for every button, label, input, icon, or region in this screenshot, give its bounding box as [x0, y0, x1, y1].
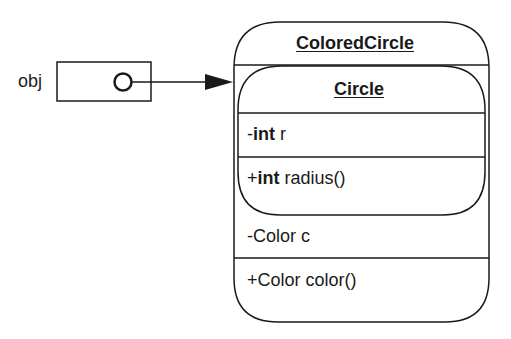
reference-label: obj: [18, 71, 42, 91]
inner-attr-name: r: [280, 124, 286, 144]
inner-attr-type: int: [253, 124, 275, 144]
inner-method: +int radius(): [247, 168, 346, 188]
inner-method-visibility: +: [247, 168, 258, 188]
outer-attribute: -Color c: [247, 226, 310, 246]
inner-class-name: Circle: [334, 79, 384, 99]
inner-method-name: radius(): [285, 168, 346, 188]
inner-attribute: -int r: [247, 124, 286, 144]
outer-class-name: ColoredCircle: [296, 33, 414, 53]
pointer-circle-icon: [115, 74, 132, 91]
outer-method: +Color color(): [247, 270, 357, 290]
inner-method-type: int: [258, 168, 280, 188]
arrowhead-icon: [205, 74, 233, 90]
